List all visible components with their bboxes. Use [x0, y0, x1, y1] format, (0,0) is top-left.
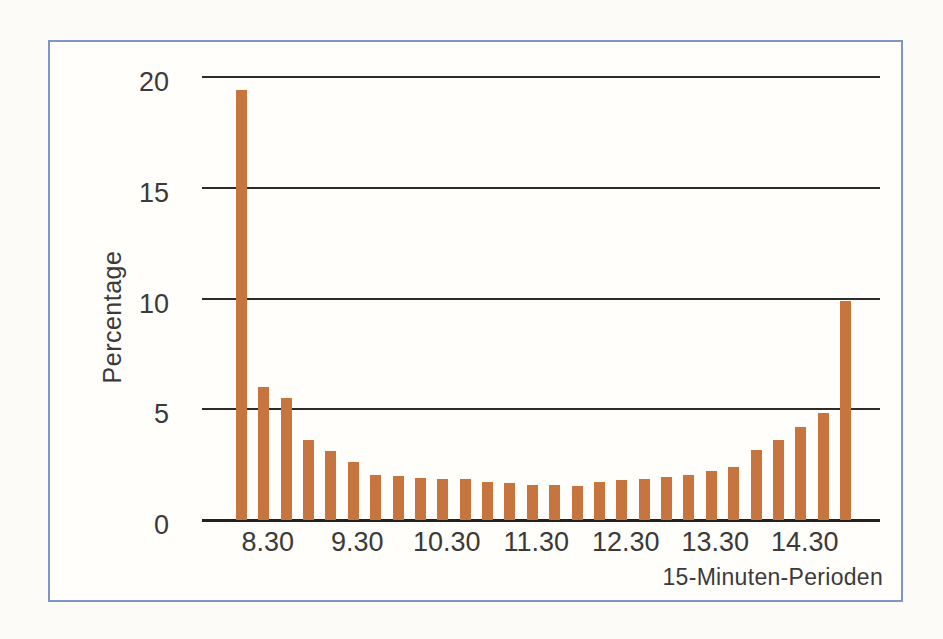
plot-area	[202, 77, 880, 520]
chart-frame: Percentage 05101520 8.309.3010.3011.3012…	[48, 40, 903, 602]
gridline	[202, 187, 880, 189]
bar	[325, 451, 336, 520]
gridline	[202, 298, 880, 300]
bar	[549, 485, 560, 520]
bar	[706, 471, 717, 520]
x-tick-label: 9.30	[331, 529, 384, 556]
gridline	[202, 408, 880, 410]
bar	[840, 301, 851, 520]
bar	[437, 479, 448, 520]
bar	[661, 477, 672, 520]
bar	[818, 413, 829, 520]
bar	[348, 462, 359, 520]
x-axis-title: 15-Minuten-Perioden	[663, 564, 884, 591]
bar	[393, 476, 404, 520]
bar	[460, 479, 471, 520]
y-tick-label: 20	[99, 69, 169, 96]
bar	[482, 482, 493, 520]
x-tick-label: 14.30	[771, 529, 839, 556]
bar	[504, 483, 515, 520]
bar	[594, 482, 605, 520]
bar	[281, 398, 292, 520]
bar	[527, 485, 538, 520]
y-tick-label: 0	[99, 512, 169, 539]
x-tick-label: 12.30	[592, 529, 660, 556]
bar	[728, 467, 739, 520]
x-tick-label: 13.30	[681, 529, 749, 556]
y-tick-label: 10	[99, 291, 169, 318]
bar	[639, 479, 650, 520]
x-tick-label: 11.30	[504, 529, 570, 556]
bar	[415, 478, 426, 520]
page-background: Percentage 05101520 8.309.3010.3011.3012…	[0, 0, 943, 639]
x-tick-label: 8.30	[242, 529, 295, 556]
y-tick-label: 15	[99, 180, 169, 207]
y-tick-label: 5	[99, 401, 169, 428]
bar	[773, 440, 784, 520]
bar	[795, 427, 806, 520]
bar	[751, 450, 762, 520]
bar	[258, 387, 269, 520]
gridline	[202, 76, 880, 78]
bar	[370, 475, 381, 520]
bar	[303, 440, 314, 520]
bar	[683, 475, 694, 520]
bar	[616, 480, 627, 520]
x-tick-label: 10.30	[413, 529, 481, 556]
bar	[572, 486, 583, 520]
bar	[236, 90, 247, 520]
